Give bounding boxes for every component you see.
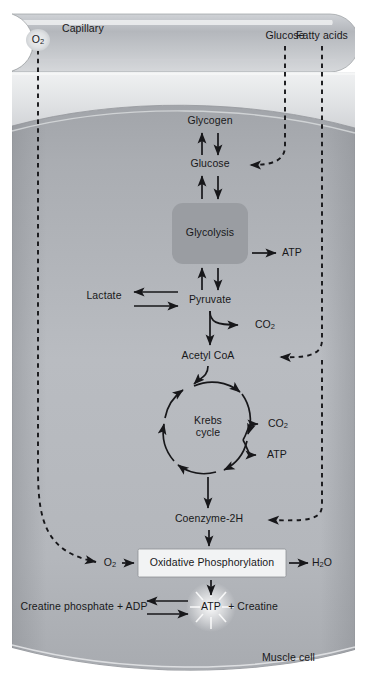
figure-canvas: Capillary O2 Glucose Fatty acids Glycoge…	[0, 0, 367, 692]
capillary-label: Capillary	[62, 23, 104, 35]
glycolysis-label: Glycolysis	[186, 227, 234, 239]
pyruvate-label: Pyruvate	[189, 294, 231, 306]
h2o-label: H2O	[312, 557, 332, 570]
muscle-cell-label: Muscle cell	[262, 652, 315, 664]
oxidative-phosphorylation-label: Oxidative Phosphorylation	[150, 557, 275, 569]
o2-cell-label: O2	[104, 557, 117, 570]
glucose-label: Glucose	[190, 158, 229, 170]
glycogen-label: Glycogen	[187, 115, 232, 127]
co2-krebs-label: CO2	[268, 418, 288, 431]
atp-glycolysis-label: ATP	[282, 247, 302, 259]
pathway-diagram	[0, 0, 367, 692]
fatty-acids-label: Fatty acids	[296, 30, 348, 42]
co2-pyruvate-label: CO2	[255, 319, 275, 332]
lactate-label: Lactate	[86, 290, 121, 302]
creatine-phosphate-adp-label: Creatine phosphate + ADP	[20, 601, 147, 613]
atp-krebs-label: ATP	[267, 449, 287, 461]
krebs-cycle-label: Krebscycle	[194, 415, 222, 438]
acetyl-coa-label: Acetyl CoA	[182, 350, 235, 362]
creatine-label: + Creatine	[228, 601, 278, 613]
coenzyme-2h-label: Coenzyme-2H	[175, 513, 243, 525]
atp-creatine-label: ATP	[201, 601, 221, 613]
o2-capillary-label: O2	[32, 34, 45, 47]
